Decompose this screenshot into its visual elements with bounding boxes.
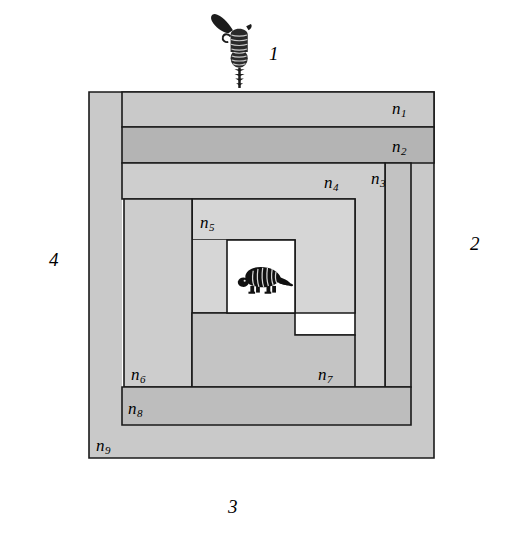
region-label-n4: n4 bbox=[324, 174, 339, 193]
region-label-n8: n8 bbox=[128, 400, 143, 419]
region-label-n9: n9 bbox=[96, 437, 111, 456]
region-label-n6: n6 bbox=[131, 366, 146, 385]
shooter-label-4: 4 bbox=[49, 250, 59, 269]
region-label-n1: n1 bbox=[392, 100, 407, 119]
region-label-n7: n7 bbox=[318, 366, 333, 385]
spiral-maze-figure: n1 n2 n3 n4 n5 n6 n7 n8 n9 1 2 3 4 bbox=[0, 0, 524, 538]
shooter-label-2: 2 bbox=[470, 234, 480, 253]
shooter-label-3: 3 bbox=[228, 497, 238, 516]
diagram-canvas bbox=[0, 0, 524, 538]
region-n8 bbox=[122, 387, 411, 425]
region-label-n3: n3 bbox=[371, 170, 386, 189]
region-n2 bbox=[122, 127, 434, 163]
region-n3 bbox=[385, 163, 411, 387]
region-label-n5: n5 bbox=[200, 214, 215, 233]
region-n1 bbox=[122, 92, 434, 127]
region-n6 bbox=[124, 199, 192, 387]
shooter-1-icon bbox=[211, 14, 252, 88]
shooter-label-1: 1 bbox=[269, 44, 279, 63]
region-label-n2: n2 bbox=[392, 138, 407, 157]
